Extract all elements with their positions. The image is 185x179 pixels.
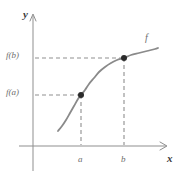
point-marker-b: [121, 55, 127, 61]
function-graph-figure: y x f(b) f(a) a b f: [0, 0, 185, 179]
guide-lines-group: [35, 58, 124, 145]
x-tick-label-b: b: [121, 155, 126, 164]
curve-name-label: f: [145, 33, 148, 43]
plot-canvas: [0, 0, 185, 179]
function-curve: [58, 48, 158, 131]
point-marker-a: [78, 92, 84, 98]
x-axis-label: x: [167, 153, 173, 164]
y-tick-label-fb: f(b): [6, 51, 19, 60]
y-axis-label: y: [23, 9, 28, 20]
x-tick-label-a: a: [78, 155, 83, 164]
y-tick-label-fa: f(a): [6, 88, 19, 97]
